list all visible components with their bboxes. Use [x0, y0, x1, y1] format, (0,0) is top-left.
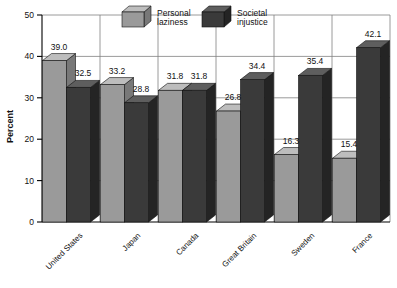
value-label: 35.4 — [307, 56, 324, 66]
bar-front-face — [333, 158, 357, 222]
bar-front-face — [299, 75, 323, 222]
light-cube-icon-front — [122, 12, 144, 27]
value-label: 16.3 — [283, 136, 300, 146]
y-tick-label: 40 — [25, 51, 35, 61]
value-label: 31.8 — [191, 71, 208, 81]
value-label: 32.5 — [75, 68, 92, 78]
bar-societal-injustice — [183, 83, 216, 222]
bar-front-face — [183, 90, 207, 222]
y-tick-label: 50 — [25, 10, 35, 20]
bar-side-face — [265, 73, 274, 222]
value-label: 33.2 — [109, 66, 126, 76]
y-axis-title-text: Percent — [5, 110, 15, 143]
bar-front-face — [101, 85, 125, 222]
y-axis-title: Percent — [5, 110, 15, 143]
chart-canvas: 01020304050 39.032.533.228.831.831.826.8… — [0, 0, 397, 288]
bar-front-face — [67, 87, 91, 222]
y-tick-label: 30 — [25, 93, 35, 103]
value-label: 31.8 — [167, 71, 184, 81]
bar-societal-injustice — [125, 96, 158, 222]
y-tick-label: 20 — [25, 134, 35, 144]
legend-item-personal-laziness: Personallaziness — [122, 6, 191, 27]
bar-chart: 01020304050 39.032.533.228.831.831.826.8… — [0, 0, 397, 288]
bar-side-face — [91, 80, 100, 222]
bar-side-face — [381, 41, 390, 222]
bar-front-face — [241, 80, 265, 222]
y-tick-label: 10 — [25, 176, 35, 186]
bar-side-face — [323, 68, 332, 222]
value-label: 42.1 — [365, 29, 382, 39]
bar-side-face — [207, 83, 216, 222]
legend-label-line2: injustice — [237, 17, 268, 27]
bar-societal-injustice — [357, 41, 390, 222]
bar-societal-injustice — [67, 80, 100, 222]
value-label: 34.4 — [249, 61, 266, 71]
bar-side-face — [149, 96, 158, 222]
bar-front-face — [125, 103, 149, 222]
bar-societal-injustice — [241, 73, 274, 222]
value-label: 39.0 — [51, 42, 68, 52]
value-label: 15.4 — [341, 139, 358, 149]
value-label: 28.8 — [133, 84, 150, 94]
bar-front-face — [275, 155, 299, 222]
dark-cube-icon-front — [202, 12, 224, 27]
y-tick-label: 0 — [29, 217, 34, 227]
value-label: 26.8 — [225, 92, 242, 102]
bar-societal-injustice — [299, 68, 332, 222]
legend-label-line2: laziness — [157, 17, 188, 27]
bar-front-face — [357, 48, 381, 222]
bar-front-face — [43, 61, 67, 222]
bar-front-face — [217, 111, 241, 222]
bar-front-face — [159, 90, 183, 222]
